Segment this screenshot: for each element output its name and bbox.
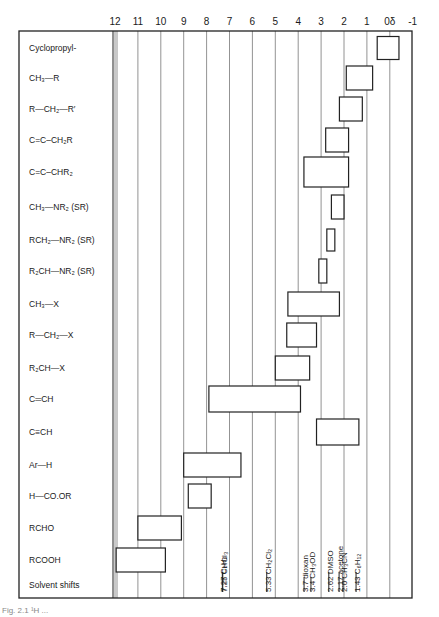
tick-label: 4: [295, 16, 301, 27]
row-label: Ar—H: [29, 460, 52, 470]
row-label: C=C–CH₂R: [29, 135, 73, 145]
row-label: RCHO: [29, 523, 54, 533]
tick-label: 9: [181, 16, 187, 27]
tick-label: 12: [109, 16, 121, 27]
row-label: C=C–CHR₂: [29, 167, 73, 177]
range-box: [327, 229, 335, 251]
tick-label: 10: [155, 16, 167, 27]
solvent-row-label: Solvent shifts: [29, 580, 80, 590]
solvent-shifts: 7.27 C₆H₆7.25 CHCl₃5.33 CH₂Cl₂3.7 dioxan…: [219, 545, 362, 592]
range-box: [339, 97, 362, 121]
range-box: [184, 453, 241, 477]
row-label: CH₃—R: [29, 73, 59, 83]
row-label: RCOOH: [29, 555, 61, 565]
tick-label: 11: [133, 16, 144, 27]
row-label: Cyclopropyl-: [29, 43, 76, 53]
range-box: [138, 516, 182, 540]
row-label: C≡CH: [29, 427, 52, 437]
tick-label: 6: [250, 16, 256, 27]
range-box: [287, 323, 317, 347]
tick-label: 7: [227, 16, 233, 27]
row-label: H—CO.OR: [29, 491, 72, 501]
row-label: R—CH₂—R′: [29, 104, 76, 114]
row-label: CH₃—NR₂ (SR): [29, 202, 89, 212]
row-label: R—CH₂—X: [29, 330, 74, 340]
range-box: [326, 128, 349, 152]
chart: 1211109876543210δ-1 Cyclopropyl-CH₃—RR—C…: [0, 0, 439, 617]
range-box: [188, 484, 211, 508]
solvent-shift-label: 7.25 CHCl₃: [220, 552, 229, 592]
range-box: [346, 66, 372, 90]
range-box: [317, 419, 359, 445]
range-box: [275, 356, 309, 380]
row-label: C═CH: [29, 394, 53, 404]
tick-label: 5: [273, 16, 279, 27]
range-box: [319, 259, 327, 283]
row-labels: Cyclopropyl-CH₃—RR—CH₂—R′C=C–CH₂RC=C–CHR…: [29, 43, 95, 590]
x-axis-ticks: 1211109876543210δ-1: [109, 16, 417, 27]
row-label: CH₃—X: [29, 299, 59, 309]
tick-label: 8: [204, 16, 210, 27]
tick-label: 3: [318, 16, 324, 27]
solvent-shift-label: 2.0 CH₃CN: [340, 552, 349, 592]
range-box: [116, 548, 165, 572]
range-boxes: [116, 37, 399, 573]
tick-label: 1: [364, 16, 370, 27]
row-label: R₂CH—NR₂ (SR): [29, 266, 95, 276]
solvent-shift-label: 3.4 CH₃OD: [308, 552, 317, 592]
range-box: [288, 292, 340, 316]
tick-label: -1: [408, 16, 417, 27]
solvent-shift-label: 1.43 C₆H₁₂: [353, 554, 362, 592]
range-box: [209, 386, 301, 412]
figure-caption: Fig. 2.1 ¹H ...: [2, 606, 48, 615]
range-box: [331, 195, 344, 219]
row-label: RCH₂—NR₂ (SR): [29, 235, 95, 245]
tick-label: 2: [341, 16, 347, 27]
solvent-shift-label: 2.62 DMSO: [326, 550, 335, 592]
tick-label: 0δ: [384, 16, 396, 27]
solvent-shift-label: 5.33 CH₂Cl₂: [264, 549, 273, 592]
range-box: [377, 37, 399, 60]
row-label: R₂CH—X: [29, 363, 65, 373]
range-box: [304, 157, 349, 187]
